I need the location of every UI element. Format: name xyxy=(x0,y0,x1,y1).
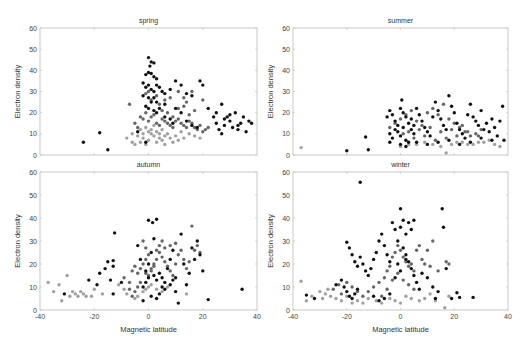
y-tick-label: 30 xyxy=(282,88,290,95)
data-point xyxy=(177,90,180,93)
data-point xyxy=(455,134,458,137)
y-tick-label: 10 xyxy=(29,130,37,137)
data-point xyxy=(147,96,150,99)
data-point xyxy=(415,119,418,122)
data-point xyxy=(152,75,155,78)
data-point xyxy=(177,253,180,256)
data-point xyxy=(418,288,421,291)
data-point xyxy=(361,262,364,265)
data-point xyxy=(166,267,169,270)
data-point xyxy=(388,126,391,129)
data-point xyxy=(98,272,101,275)
data-point xyxy=(106,260,109,263)
data-point xyxy=(377,239,380,242)
data-point xyxy=(404,115,407,118)
data-point xyxy=(144,105,147,108)
data-point xyxy=(455,291,458,294)
data-point xyxy=(407,260,410,263)
data-point xyxy=(103,267,106,270)
data-point xyxy=(431,143,434,146)
data-point xyxy=(163,119,166,122)
data-point xyxy=(63,292,66,295)
data-point xyxy=(348,246,351,249)
data-point xyxy=(139,128,142,131)
data-point xyxy=(169,136,172,139)
data-point xyxy=(412,274,415,277)
data-point xyxy=(423,262,426,265)
data-point xyxy=(147,56,150,59)
data-point xyxy=(163,98,166,101)
data-point xyxy=(155,278,158,281)
x-axis-label: Magnetic latitude xyxy=(372,325,429,334)
data-point xyxy=(410,109,413,112)
data-point xyxy=(321,297,324,300)
data-point xyxy=(163,246,166,249)
data-point xyxy=(144,281,147,284)
data-point xyxy=(353,260,356,263)
data-point xyxy=(125,136,128,139)
data-point xyxy=(426,249,429,252)
data-point xyxy=(179,122,182,125)
data-point xyxy=(198,253,201,256)
data-point xyxy=(469,141,472,144)
data-point xyxy=(348,295,351,298)
data-point xyxy=(418,128,421,131)
y-tick-label: 20 xyxy=(282,109,290,116)
data-point xyxy=(150,128,153,131)
x-tick-label: 0 xyxy=(399,313,403,320)
data-point xyxy=(410,228,413,231)
y-axis-label: Electron density xyxy=(266,65,275,119)
data-point xyxy=(174,79,177,82)
data-point xyxy=(399,226,402,229)
data-point xyxy=(120,281,123,284)
data-point xyxy=(158,251,161,254)
data-point xyxy=(198,79,201,82)
data-point xyxy=(136,130,139,133)
data-point xyxy=(204,128,207,131)
data-point xyxy=(144,92,147,95)
data-point xyxy=(226,115,229,118)
y-tick-label: 30 xyxy=(29,88,37,95)
data-point xyxy=(174,262,177,265)
data-point xyxy=(171,274,174,277)
data-point xyxy=(412,124,415,127)
data-point xyxy=(166,122,169,125)
data-point xyxy=(82,141,85,144)
data-point xyxy=(76,295,79,298)
data-point xyxy=(147,219,150,222)
subplot-spring: spring0102030405060Electron density xyxy=(13,17,257,159)
data-point xyxy=(426,111,429,114)
x-axis-label: Magnetic latitude xyxy=(120,325,177,334)
data-point xyxy=(423,134,426,137)
x-tick-label: 20 xyxy=(199,313,207,320)
data-point xyxy=(407,221,410,224)
data-point xyxy=(498,119,501,122)
data-point xyxy=(442,103,445,106)
data-point xyxy=(242,115,245,118)
y-tick-label: 0 xyxy=(33,152,37,159)
data-point xyxy=(155,94,158,97)
data-point xyxy=(402,126,405,129)
data-point xyxy=(201,269,204,272)
data-point xyxy=(144,126,147,129)
data-point xyxy=(160,90,163,93)
data-point xyxy=(158,136,161,139)
data-point xyxy=(420,119,423,122)
data-point xyxy=(155,77,158,80)
data-point xyxy=(155,218,158,221)
data-point xyxy=(160,290,163,293)
data-point xyxy=(169,124,172,127)
data-point xyxy=(163,260,166,263)
data-point xyxy=(479,136,482,139)
data-point xyxy=(407,122,410,125)
data-point xyxy=(141,136,144,139)
data-point xyxy=(250,122,253,125)
data-point xyxy=(147,262,150,265)
data-point xyxy=(485,122,488,125)
data-point xyxy=(160,239,163,242)
data-point xyxy=(404,145,407,148)
data-point xyxy=(160,117,163,120)
data-point xyxy=(410,297,413,300)
x-tick-label: 20 xyxy=(450,313,458,320)
data-point xyxy=(220,103,223,106)
